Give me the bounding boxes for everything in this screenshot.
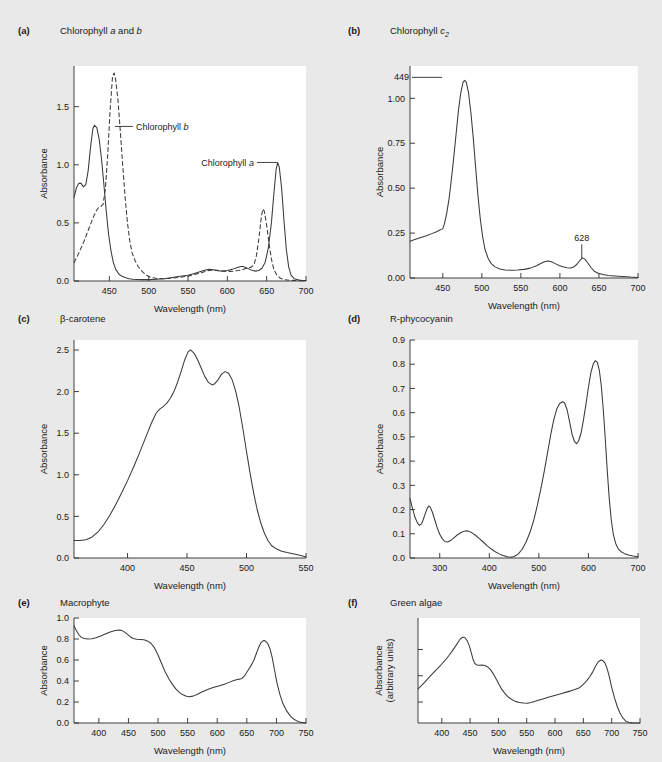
y-tick-label: 0.1 [392,529,405,539]
y-tick-label: 0.2 [392,505,405,515]
x-tick-label: 550 [180,728,195,738]
panel-b-plot: 4505005506006507000.000.250.500.751.00Wa… [348,24,660,324]
y-tick-label: 0.0 [56,553,69,563]
y-tick-label: 0.5 [56,512,69,522]
x-tick-label: 450 [180,563,195,573]
plot-area-background [74,340,306,558]
x-tick-label: 600 [581,563,596,573]
x-tick-label: 700 [269,728,284,738]
x-tick-label: 400 [482,563,497,573]
y-tick-label: 0.9 [392,335,405,345]
x-tick-label: 450 [121,728,136,738]
y-tick-label: 0.5 [392,432,405,442]
x-tick-label: 450 [102,286,117,296]
x-tick-label: 650 [576,728,591,738]
x-tick-label: 550 [513,283,528,293]
y-tick-label: 0.8 [392,359,405,369]
x-tick-label: 650 [259,286,274,296]
x-tick-label: 550 [519,728,534,738]
x-tick-label: 400 [91,728,106,738]
x-axis-title: Wavelength (nm) [488,580,560,591]
peak-label-628: 628 [574,233,589,243]
y-axis-title: Absorbance [374,424,385,475]
panel-d-plot: 3004005006007000.00.10.20.30.40.50.60.70… [348,312,660,604]
plot-area-background [74,618,306,723]
x-tick-label: 500 [239,563,254,573]
y-tick-label: 0.7 [392,384,405,394]
y-tick-label: 0.8 [56,634,69,644]
x-tick-label: 500 [474,283,489,293]
y-tick-label: 2.5 [56,345,69,355]
x-tick-label: 550 [181,286,196,296]
curve-label-chlorophyll-b: Chlorophyll b [136,122,189,132]
x-axis-title: Wavelength (nm) [488,300,560,311]
panel-a-plot: 4505005506006507000.00.51.01.5Wavelength… [18,24,328,327]
plot-area-background [410,340,638,558]
y-tick-label: 0.6 [392,408,405,418]
y-tick-label: 1.5 [56,102,69,112]
x-tick-label: 650 [239,728,254,738]
x-axis-title: Wavelength (nm) [493,745,565,756]
x-tick-label: 550 [298,563,313,573]
y-tick-label: 1.0 [56,160,69,170]
x-tick-label: 750 [632,728,647,738]
y-axis-title: Absorbance [374,147,385,198]
x-tick-label: 500 [141,286,156,296]
x-tick-label: 450 [463,728,478,738]
y-axis-title: Absorbance [38,645,49,696]
y-axis-title-line1: Absorbance [373,645,384,696]
panel-e-plot: 4004505005506006507007500.00.20.40.60.81… [18,596,328,762]
y-tick-label: 0.3 [392,481,405,491]
x-tick-label: 600 [552,283,567,293]
y-tick-label: 0.6 [56,655,69,665]
x-tick-label: 500 [531,563,546,573]
x-tick-label: 700 [630,563,645,573]
absorption-spectra-figure: (a)Chlorophyll a and b450500550600650700… [0,0,662,762]
panel-f-plot: 400450500550600650700750Wavelength (nm)A… [348,596,662,762]
x-tick-label: 500 [491,728,506,738]
y-tick-label: 0.0 [56,718,69,728]
plot-area-background [410,66,638,278]
x-tick-label: 700 [298,286,313,296]
y-axis-title-line2: (arbitrary units) [384,639,395,703]
y-tick-label: 1.0 [56,470,69,480]
y-tick-label: 1.00 [387,94,405,104]
plot-area-background [74,66,306,281]
peak-label-449: 449 [394,72,409,82]
x-tick-label: 750 [298,728,313,738]
x-tick-label: 300 [432,563,447,573]
curve-label-chlorophyll-a: Chlorophyll a [201,158,254,168]
x-tick-label: 400 [434,728,449,738]
x-tick-label: 700 [630,283,645,293]
x-tick-label: 400 [120,563,135,573]
y-axis-title: Absorbance [38,148,49,199]
x-tick-label: 600 [220,286,235,296]
x-tick-label: 500 [151,728,166,738]
x-tick-label: 700 [604,728,619,738]
y-tick-label: 0.75 [387,138,405,148]
y-tick-label: 0.4 [392,456,405,466]
y-axis-title: Absorbance [38,424,49,475]
y-tick-label: 0.0 [392,553,405,563]
x-axis-title: Wavelength (nm) [154,580,226,591]
plot-area-background [418,618,640,723]
x-tick-label: 600 [210,728,225,738]
x-axis-title: Wavelength (nm) [154,745,226,756]
y-tick-label: 1.0 [56,613,69,623]
y-tick-label: 0.50 [387,183,405,193]
panel-c-plot: 4004505005500.00.51.01.52.02.5Wavelength… [18,312,328,604]
y-tick-label: 0.5 [56,218,69,228]
x-tick-label: 600 [548,728,563,738]
y-tick-label: 0.25 [387,228,405,238]
x-tick-label: 450 [435,283,450,293]
y-tick-label: 0.2 [56,697,69,707]
x-tick-label: 650 [591,283,606,293]
y-tick-label: 0.0 [56,276,69,286]
y-tick-label: 0.00 [387,273,405,283]
y-tick-label: 2.0 [56,387,69,397]
y-tick-label: 1.5 [56,428,69,438]
y-tick-label: 0.4 [56,676,69,686]
